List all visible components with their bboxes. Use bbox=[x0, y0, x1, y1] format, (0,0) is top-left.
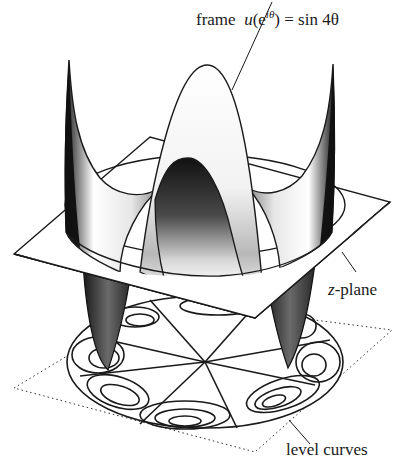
frame-label-rhs: = sin 4θ bbox=[280, 10, 339, 29]
frame-label-arg-open: (e bbox=[253, 10, 266, 29]
harmonic-surface-diagram bbox=[0, 0, 411, 475]
frame-label-func: u bbox=[244, 10, 253, 29]
zplane-leader-line bbox=[342, 252, 356, 272]
z-plane-label: z-plane bbox=[328, 280, 377, 300]
z-plane-label-suffix: -plane bbox=[335, 280, 377, 299]
level-curves-label: level curves bbox=[286, 440, 368, 460]
frame-label-prefix: frame bbox=[196, 10, 236, 29]
frame-label: frame u(eiθ) = sin 4θ bbox=[196, 8, 339, 30]
z-plane-label-var: z bbox=[328, 280, 335, 299]
